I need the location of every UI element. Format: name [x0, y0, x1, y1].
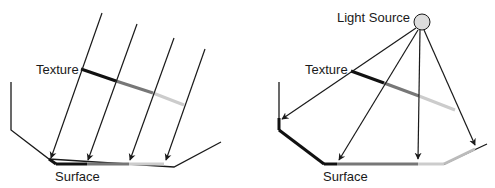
left-surface-label: Surface	[55, 170, 100, 183]
texture-segment	[384, 83, 419, 96]
right-surface-label: Surface	[323, 170, 368, 183]
right-texture-label: Texture	[305, 63, 348, 76]
left-texture-label: Texture	[36, 63, 79, 76]
surface-texture-segment	[279, 130, 324, 164]
projection-ray-arrow	[282, 28, 416, 119]
projection-diagram-svg	[0, 0, 495, 188]
projection-ray-arrow	[166, 49, 205, 160]
texture-segment	[81, 69, 116, 81]
texture-segment	[351, 71, 384, 83]
projection-ray-arrow	[88, 24, 137, 160]
projection-ray-arrow	[424, 30, 475, 145]
projection-ray-arrow	[51, 13, 102, 158]
texture-segment	[153, 93, 184, 105]
parallel-projection-panel	[11, 13, 221, 167]
point-light-projection-panel	[279, 14, 487, 164]
surface-texture-segment	[444, 149, 475, 164]
texture-segment	[419, 96, 455, 110]
texture-segment	[116, 81, 153, 93]
projection-ray-arrow	[339, 30, 418, 160]
projection-diagram: Texture Surface Light Source Texture Sur…	[0, 0, 495, 188]
light-source-icon	[414, 14, 430, 30]
light-source-label: Light Source	[337, 11, 410, 24]
